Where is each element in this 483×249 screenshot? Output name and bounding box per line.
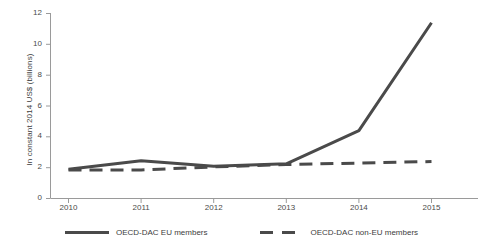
chart-legend: OECD-DAC EU members OECD-DAC non-EU memb… bbox=[0, 222, 483, 242]
line-chart: In constant 2014 US$ (billions) 12 10 8 … bbox=[0, 0, 483, 249]
x-tick-label: 2010 bbox=[49, 203, 89, 212]
legend-label: OECD-DAC EU members bbox=[116, 228, 208, 237]
legend-item-oecd-dac-eu-members: OECD-DAC EU members bbox=[65, 228, 208, 237]
x-tick-label: 2011 bbox=[121, 203, 161, 212]
x-tick-label: 2015 bbox=[412, 203, 452, 212]
series-line-oecd-dac-eu-members bbox=[69, 23, 432, 169]
legend-label: OECD-DAC non-EU members bbox=[311, 228, 419, 237]
solid-line-swatch-icon bbox=[65, 231, 109, 234]
dashed-line-swatch-icon bbox=[260, 231, 304, 234]
y-axis-ticks bbox=[46, 14, 51, 199]
legend-item-oecd-dac-non-eu-members: OECD-DAC non-EU members bbox=[260, 228, 419, 237]
x-tick-label: 2014 bbox=[339, 203, 379, 212]
x-tick-label: 2013 bbox=[266, 203, 306, 212]
x-tick-label: 2012 bbox=[194, 203, 234, 212]
